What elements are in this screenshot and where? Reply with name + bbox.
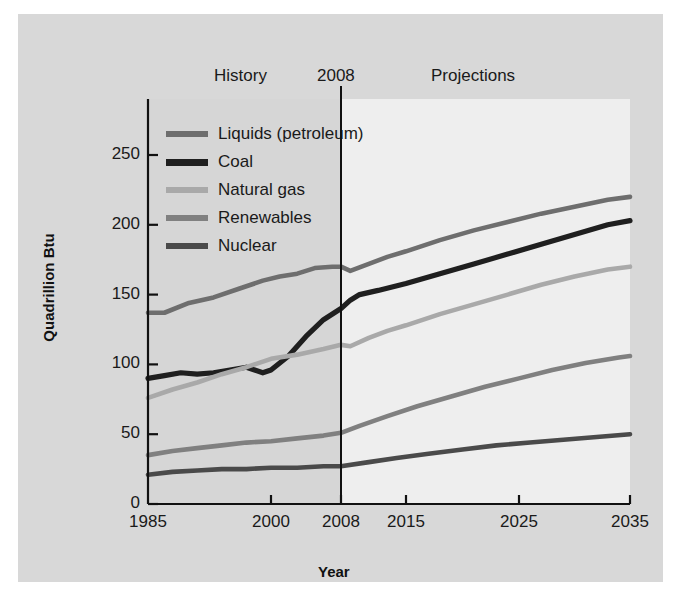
series-line-nuclear <box>148 434 630 474</box>
series-line-liquids-petroleum <box>148 197 630 313</box>
figure-panel: History 2008 Projections Quadrillion Btu… <box>18 14 663 582</box>
series-layer <box>148 197 630 475</box>
series-line-coal <box>148 221 630 379</box>
line-chart-plot <box>18 14 681 596</box>
